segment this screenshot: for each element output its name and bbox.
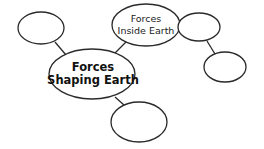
node-forces-shaping-earth: Forces Shaping Earth: [47, 49, 139, 99]
link-right-top-to-right-bottom: [207, 41, 215, 54]
link-central-to-inside-earth: [115, 42, 126, 53]
link-central-to-top-left: [55, 42, 66, 55]
concept-map: Forces Inside Earth Forces Shaping Earth: [0, 0, 264, 149]
node-right-bottom-blank: [204, 52, 246, 82]
node-central-line1: Forces: [72, 60, 115, 74]
node-forces-inside-earth: Forces Inside Earth: [112, 4, 180, 46]
node-inside-earth-line2: Inside Earth: [118, 25, 175, 36]
node-right-top-blank: [178, 13, 220, 41]
node-bottom-blank: [111, 102, 167, 142]
node-top-left-blank: [18, 12, 64, 44]
node-central-line2: Shaping Earth: [47, 73, 139, 87]
node-inside-earth-line1: Forces: [131, 13, 162, 24]
link-central-to-bottom: [115, 97, 124, 105]
